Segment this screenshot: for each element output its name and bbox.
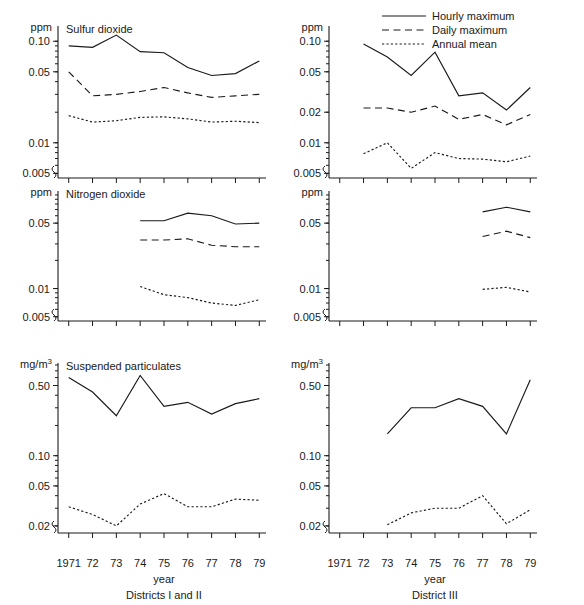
legend-label-daily-maximum: Daily maximum — [432, 24, 507, 36]
series-line-dotted — [140, 287, 259, 306]
chart-canvas: 0.100.050.010.005ppmSulfur dioxide0.100.… — [0, 0, 584, 605]
panel-middle-left: 0.050.010.005ppmNitrogen dioxide — [22, 186, 266, 326]
x-tick-label: 76 — [453, 557, 465, 569]
x-tick-label: 74 — [134, 557, 146, 569]
series-line-dotted — [387, 496, 530, 525]
y-tick-label: 0.10 — [29, 35, 50, 47]
axis-break-icon — [52, 521, 56, 533]
axis-break-icon — [323, 166, 327, 178]
x-tick-label: 78 — [229, 557, 241, 569]
y-tick-label: 0.05 — [29, 480, 50, 492]
y-unit-label: ppm — [31, 186, 52, 198]
panel-top-right: 0.100.050.020.010.005ppm — [293, 21, 537, 183]
y-tick-label: 0.01 — [29, 137, 50, 149]
x-tick-label: 75 — [429, 557, 441, 569]
y-tick-label: 0.10 — [300, 450, 321, 462]
panel-bottom-right: 0.500.100.050.02mg/m3 — [291, 357, 537, 538]
legend: Hourly maximumDaily maximumAnnual mean — [382, 10, 515, 50]
series-line-dotted — [483, 287, 531, 292]
y-tick-label: 0.10 — [29, 450, 50, 462]
x-tick-label: 79 — [253, 557, 265, 569]
x-tick-label: 75 — [158, 557, 170, 569]
panel-top-left: 0.100.050.010.005ppmSulfur dioxide — [22, 21, 266, 183]
y-tick-label: 0.05 — [29, 217, 50, 229]
y-tick-label: 0.05 — [300, 217, 321, 229]
panel-middle-right: 0.050.010.005ppm — [293, 186, 537, 326]
figure-root: 0.100.050.010.005ppmSulfur dioxide0.100.… — [0, 0, 584, 605]
y-tick-label: 0.005 — [293, 311, 321, 323]
x-tick-label: 77 — [206, 557, 218, 569]
y-unit-label: mg/m3 — [291, 357, 324, 370]
y-unit-label: mg/m3 — [20, 357, 53, 370]
y-tick-label: 0.05 — [300, 66, 321, 78]
column-caption: Districts I and II — [126, 589, 202, 601]
series-line-solid — [69, 375, 260, 415]
panel-bottom-left: 0.500.100.050.02mg/m3Suspended particula… — [20, 357, 266, 538]
series-line-dashed — [140, 239, 259, 247]
x-tick-label: 73 — [110, 557, 122, 569]
x-tick-label: 76 — [182, 557, 194, 569]
y-tick-label: 0.005 — [293, 167, 321, 179]
x-axis-labels-col1: 19717273747576777879yearDistrict III — [327, 557, 536, 601]
x-tick-label: 74 — [405, 557, 417, 569]
series-line-dotted — [364, 143, 531, 169]
y-tick-label: 0.01 — [300, 137, 321, 149]
series-line-dashed — [483, 231, 531, 237]
x-axis-labels-col0: 19717273747576777879yearDistricts I and … — [56, 557, 265, 601]
x-tick-label: 77 — [477, 557, 489, 569]
axis-break-icon — [323, 309, 327, 321]
x-axis-title: year — [424, 573, 446, 585]
panel-title: Nitrogen dioxide — [66, 188, 146, 200]
x-tick-label: 78 — [500, 557, 512, 569]
y-unit-label: ppm — [31, 21, 52, 33]
y-tick-label: 0.10 — [300, 35, 321, 47]
series-line-dotted — [69, 116, 260, 123]
y-tick-label: 0.01 — [29, 283, 50, 295]
x-tick-label: 73 — [381, 557, 393, 569]
axis-break-icon — [52, 309, 56, 321]
y-unit-label: ppm — [302, 21, 323, 33]
x-tick-label: 72 — [357, 557, 369, 569]
legend-label-hourly-maximum: Hourly maximum — [432, 10, 515, 22]
y-tick-label: 0.50 — [300, 380, 321, 392]
y-tick-label: 0.005 — [22, 167, 50, 179]
y-tick-label: 0.02 — [300, 106, 321, 118]
series-line-solid — [483, 207, 531, 212]
y-unit-label: ppm — [302, 186, 323, 198]
x-tick-label: 1971 — [56, 557, 80, 569]
series-line-solid — [387, 380, 530, 434]
x-tick-label: 1971 — [327, 557, 351, 569]
y-tick-label: 0.05 — [29, 66, 50, 78]
y-tick-label: 0.50 — [29, 380, 50, 392]
series-line-solid — [69, 35, 260, 75]
series-line-dashed — [69, 72, 260, 98]
series-line-dotted — [69, 494, 260, 526]
y-tick-label: 0.02 — [29, 520, 50, 532]
x-tick-label: 79 — [524, 557, 536, 569]
series-line-solid — [140, 213, 259, 224]
x-axis-title: year — [153, 573, 175, 585]
panel-title: Suspended particulates — [66, 360, 181, 372]
series-line-solid — [364, 44, 531, 110]
panel-title: Sulfur dioxide — [66, 23, 133, 35]
y-tick-label: 0.01 — [300, 283, 321, 295]
axis-break-icon — [323, 521, 327, 533]
y-tick-label: 0.005 — [22, 311, 50, 323]
column-caption: District III — [412, 589, 458, 601]
y-tick-label: 0.05 — [300, 480, 321, 492]
x-tick-label: 72 — [86, 557, 98, 569]
legend-label-annual-mean: Annual mean — [432, 38, 497, 50]
y-tick-label: 0.02 — [300, 520, 321, 532]
axis-break-icon — [52, 166, 56, 178]
